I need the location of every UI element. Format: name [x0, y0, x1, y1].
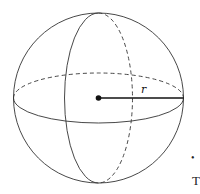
equator-front: [14, 98, 184, 123]
sphere-diagram: r: [0, 0, 200, 194]
center-point: [96, 95, 102, 101]
partial-dot: •: [191, 152, 195, 163]
meridian-front: [65, 13, 99, 183]
radius-label: r: [141, 83, 147, 96]
equator-back-dashed: [14, 73, 184, 98]
partial-letter: T: [192, 173, 200, 189]
